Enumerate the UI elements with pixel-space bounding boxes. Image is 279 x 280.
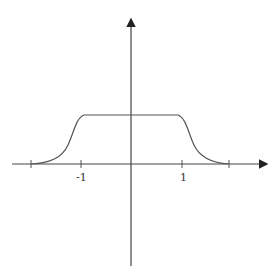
- plateau-curve: [31, 115, 229, 164]
- tick-label-one: 1: [180, 171, 187, 184]
- plateau-function-chart: -1 1: [0, 0, 279, 280]
- tick-label-neg-one: -1: [76, 171, 87, 184]
